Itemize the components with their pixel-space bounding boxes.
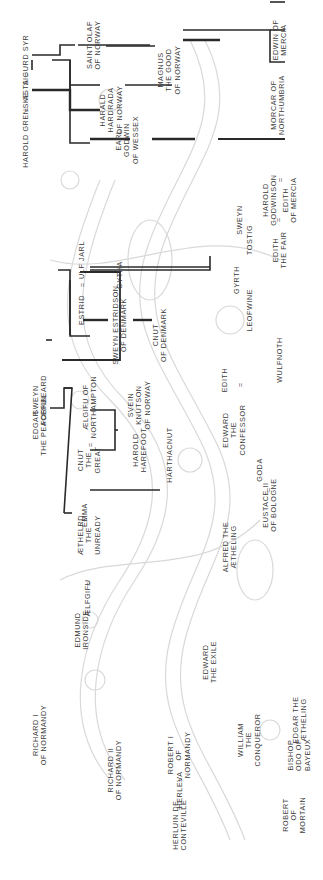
- person-name-line: HAROLD GRENSKE: [22, 92, 30, 168]
- marriage-symbol: =: [23, 73, 30, 77]
- marriage-symbol: =: [23, 108, 30, 112]
- marriage-symbol: =: [87, 443, 94, 447]
- person-name-line: ESTRID: [78, 295, 86, 325]
- person-name-line: THE PEACEFUL: [40, 394, 48, 456]
- person-name-line: GREAT: [94, 446, 102, 473]
- person-name-line: SIGURD SYR: [22, 35, 30, 86]
- person-name-line: CONQUEROR: [254, 714, 262, 767]
- person-name-line: UNREADY: [94, 515, 102, 555]
- person-name-line: ÆTHELING: [230, 522, 238, 573]
- person-name-line: HARTHACNUT: [166, 427, 174, 482]
- person-edwin: EDWIN OFMERCIA: [272, 20, 289, 61]
- person-leofwine: LEOFWINE: [246, 289, 254, 331]
- person-edith-the-fair: EDITHTHE FAIR: [272, 231, 289, 268]
- person-edward-exile: EDWARDTHE EXILE: [202, 641, 219, 683]
- person-odo: BISHOPODO OFBAYEUX: [287, 739, 312, 771]
- person-name-line: IRONSIDE: [82, 610, 90, 650]
- person-name-line: MORTAIN: [299, 797, 307, 834]
- person-name-line: OF NORWAY: [144, 381, 152, 430]
- person-alfred-aetheling: ALFRED THEÆTHELING: [222, 522, 239, 573]
- person-name-line: NORMANDY: [184, 732, 192, 779]
- person-edgar-peaceful: EDGARTHE PEACEFUL: [32, 394, 49, 456]
- person-name-line: NORTHUMBRIA: [278, 75, 286, 135]
- person-name-line: ULF JARL: [78, 241, 86, 279]
- person-edith-mercia: EDITHOF MERCIA: [282, 177, 299, 222]
- person-name-line: CONFESSOR: [239, 405, 247, 456]
- person-edith-wessex: EDITH: [221, 368, 229, 393]
- person-name-line: OF NORWAY: [174, 46, 182, 95]
- person-name-line: SWEYN: [236, 205, 244, 234]
- person-saint-olaf: SAINT OLAFOF NORWAY: [86, 21, 103, 70]
- person-name-line: MERCIA: [280, 20, 288, 61]
- person-name-line: HAREFOOT: [140, 428, 148, 473]
- person-robert-mortain: ROBERTOFMORTAIN: [282, 797, 307, 834]
- person-name-line: NORTHAMPTON: [90, 376, 98, 439]
- person-name-line: OF WESSEX: [132, 116, 140, 164]
- person-name-line: THE FAIR: [280, 231, 288, 268]
- person-cnut-the-great: CNUTTHEGREAT: [77, 446, 102, 473]
- person-name-line: OF DENMARK: [120, 285, 128, 364]
- person-name-line: OF NORWAY: [94, 21, 102, 70]
- person-edmund-ironside: EDMUNDIRONSIDE: [74, 610, 91, 650]
- person-magnus: MAGNUSTHE GOODOF NORWAY: [157, 46, 182, 95]
- person-eustace: EUSTACE IIOF BOLOGNE: [262, 478, 279, 532]
- person-aelgifu-northampton: ÆLGIFU OFNORTHAMPTON: [82, 376, 99, 439]
- marriage-symbol: =: [177, 778, 184, 782]
- person-name-line: WULFNOTH: [276, 337, 284, 383]
- person-name-line: GYRTH: [233, 266, 241, 294]
- person-edgar-aetheling: EDGAR THEÆTHELING: [292, 696, 309, 743]
- person-name-line: OF BOLOGNE: [270, 478, 278, 532]
- person-sweyn-godwinson: SWEYN: [236, 205, 244, 234]
- marriage-symbol: =: [265, 488, 272, 492]
- family-tree-diagram: SIGURD SYRASTAHAROLD GRENSKESAINT OLAFOF…: [0, 0, 323, 880]
- person-name-line: TOSTIG: [246, 225, 254, 255]
- person-name-line: OF DENMARK: [160, 308, 168, 362]
- person-sweyn-estridson: SWEYN ESTRIDSONOF DENMARK: [112, 285, 129, 364]
- person-harthacnut: HARTHACNUT: [166, 427, 174, 482]
- marriage-symbol: =: [79, 283, 86, 287]
- person-cnut-of-denmark: CNUTOF DENMARK: [152, 308, 169, 362]
- person-name-line: ÆTHELING: [300, 696, 308, 743]
- person-richard-i: RICHARD IOF NORMANDY: [32, 705, 49, 766]
- person-name-line: LEOFWINE: [246, 289, 254, 331]
- person-harold-harefoot: HAROLDHAREFOOT: [132, 428, 149, 473]
- person-name-line: OF NORMANDY: [115, 740, 123, 801]
- person-name-line: OF MERCIA: [290, 177, 298, 222]
- marriage-symbol: =: [237, 383, 244, 387]
- person-name-line: OF NORMANDY: [40, 705, 48, 766]
- person-tostig: TOSTIG: [246, 225, 254, 255]
- person-ulf-jarl: ULF JARL: [78, 241, 86, 279]
- person-gyrth: GYRTH: [233, 266, 241, 294]
- marriage-symbol: =: [85, 582, 92, 586]
- person-wulfnoth: WULFNOTH: [276, 337, 284, 383]
- person-name-line: THE EXILE: [210, 641, 218, 683]
- person-morcar: MORCAR OFNORTHUMBRIA: [270, 75, 287, 135]
- person-william: WILLIAMTHECONQUEROR: [237, 714, 262, 767]
- person-earl-godwin: EARLGODWINOF WESSEX: [115, 116, 140, 164]
- marriage-symbol: =: [82, 518, 89, 522]
- person-richard-ii: RICHARD IIOF NORMANDY: [107, 740, 124, 801]
- person-svein-knutson: SVEINKNUTSONOF NORWAY: [127, 381, 152, 430]
- person-harold-grenske: HAROLD GRENSKE: [22, 92, 30, 168]
- person-name-line: EDITH: [221, 368, 229, 393]
- marriage-symbol: =: [275, 218, 282, 222]
- person-sigurd-syr: SIGURD SYR: [22, 35, 30, 86]
- person-name-line: BAYEUX: [304, 739, 312, 771]
- person-edward-confessor: EDWARDTHECONFESSOR: [222, 405, 247, 456]
- marriage-symbol: =: [177, 806, 184, 810]
- marriage-symbol: =: [277, 178, 284, 182]
- person-estrid: ESTRID: [78, 295, 86, 325]
